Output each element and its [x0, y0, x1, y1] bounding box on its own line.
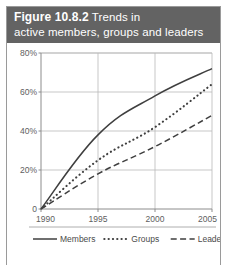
legend-label-groups: Groups	[131, 234, 159, 244]
figure-title-part-2: active members, groups and leaders	[14, 25, 214, 40]
line-chart-svg: 020%40%60%80% 1990199520002005 MembersGr…	[7, 43, 220, 266]
data-series-group	[41, 69, 212, 209]
series-line-members	[41, 69, 212, 209]
legend-label-members: Members	[60, 234, 95, 244]
chart-plot-area: 020%40%60%80% 1990199520002005 MembersGr…	[7, 43, 220, 266]
y-tick-label: 20%	[20, 165, 37, 175]
y-tick-label: 40%	[20, 126, 37, 136]
series-line-groups	[41, 84, 212, 209]
x-axis-tick-labels: 1990199520002005	[36, 209, 217, 224]
y-tick-label: 80%	[20, 48, 37, 58]
y-tick-label: 60%	[20, 87, 37, 97]
figure-container: Figure 10.8.2 Trends in active members, …	[6, 6, 221, 265]
x-tick-label: 1990	[36, 214, 55, 224]
x-tick-label: 1995	[89, 214, 108, 224]
x-tick-label: 2005	[198, 214, 217, 224]
chart-legend: MembersGroupsLeaders	[29, 227, 220, 244]
figure-number: Figure 10.8.2	[14, 10, 89, 24]
figure-header: Figure 10.8.2 Trends in active members, …	[7, 7, 220, 43]
legend-label-leaders: Leaders	[198, 234, 220, 244]
figure-header-line-1: Figure 10.8.2 Trends in	[14, 10, 214, 25]
figure-title-part-1: Trends in	[92, 11, 140, 23]
y-axis-tick-labels: 020%40%60%80%	[20, 48, 41, 214]
series-line-leaders	[41, 115, 212, 209]
x-tick-label: 2000	[146, 214, 165, 224]
y-tick-label: 0	[32, 204, 37, 214]
